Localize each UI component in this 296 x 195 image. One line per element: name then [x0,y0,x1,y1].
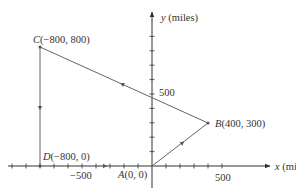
x-tick-label-500: 500 [215,173,231,184]
x-tick-label-neg-500: −500 [70,171,92,182]
point-d-label: D(−800, 0) [43,152,90,163]
points [39,46,210,168]
point-d [39,165,42,168]
arrow-c-d-icon [38,106,42,110]
point-b-label: B(400, 300) [215,119,265,130]
point-b [207,122,210,125]
y-axis-label: y (miles) [161,13,198,24]
coordinate-diagram [0,0,296,195]
point-c [39,46,42,49]
segment-a-b [152,123,208,166]
arrow-d-a-icon [103,164,107,168]
x-axis-label: x (miles) [275,162,296,173]
y-tick-label-500: 500 [159,88,175,99]
point-c-label: C(−800, 800) [33,35,90,46]
arrow-b-c-icon [119,81,124,87]
route-path [40,47,208,166]
point-a-label: A(0, 0) [118,170,147,181]
